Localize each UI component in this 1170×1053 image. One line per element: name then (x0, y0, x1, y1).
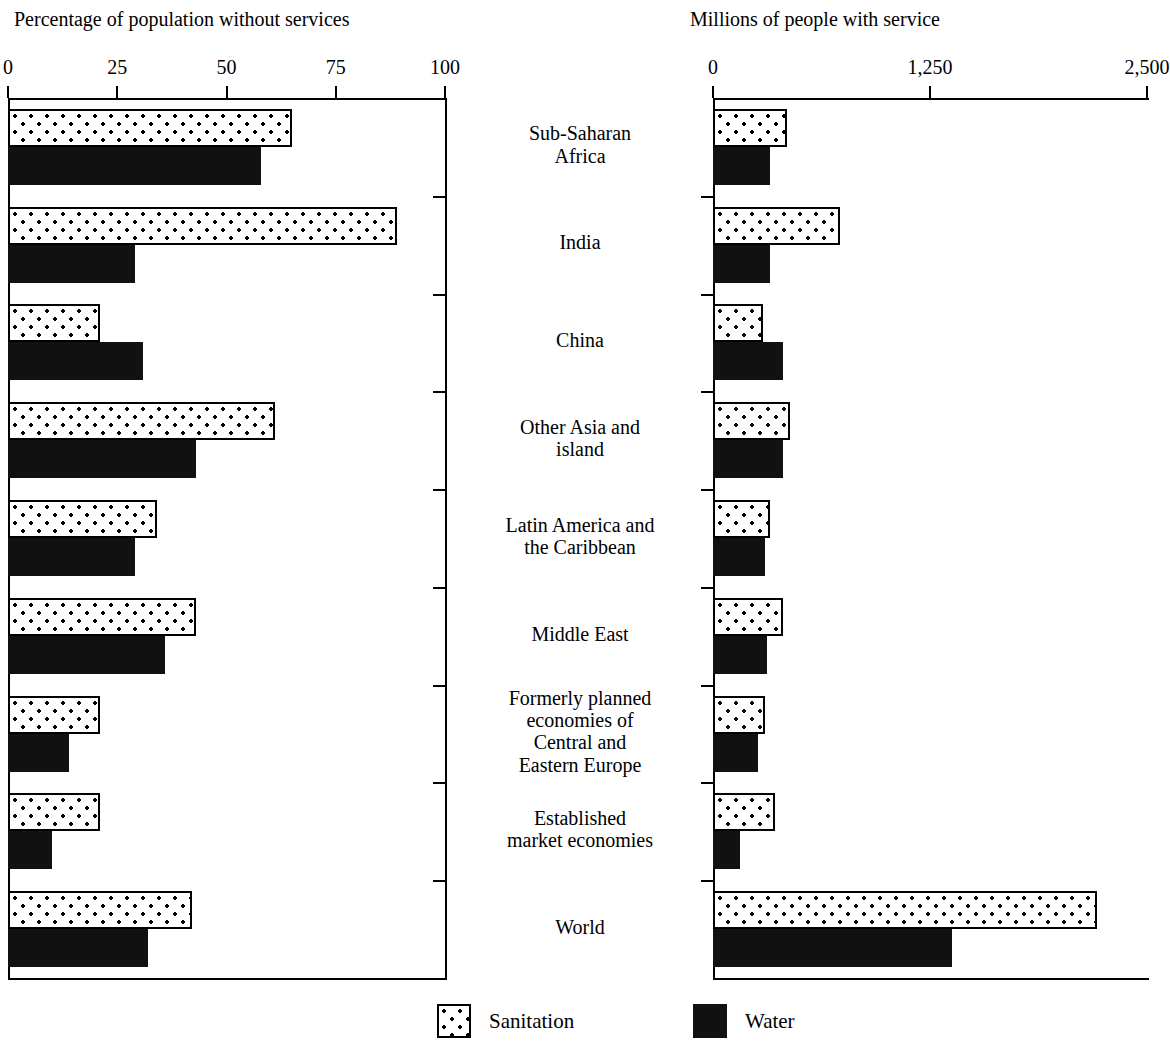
category-label: China (455, 329, 705, 351)
bar-sanitation (713, 109, 787, 147)
x-axis-tick (7, 86, 9, 98)
chart-legend: Sanitation Water (0, 1000, 1153, 1053)
bar-water (8, 147, 261, 185)
bar-sanitation (713, 207, 840, 245)
category-label-line: Other Asia and (455, 416, 705, 438)
bar-water (8, 831, 52, 869)
plot-bottom-border (8, 978, 447, 980)
category-separator-tick (433, 391, 447, 393)
x-axis-tick-label: 0 (708, 56, 718, 79)
category-label-line: Formerly planned (455, 687, 705, 709)
bar-sanitation (8, 696, 100, 734)
bar-water (713, 440, 783, 478)
bar-water (8, 342, 143, 380)
x-axis-tick-label: 75 (326, 56, 346, 79)
bar-water (713, 734, 758, 772)
x-axis-tick (1146, 86, 1148, 98)
category-label: Formerly plannedeconomies ofCentral andE… (455, 687, 705, 777)
legend-label-water: Water (745, 1009, 795, 1034)
bar-water (713, 147, 770, 185)
category-label: India (455, 231, 705, 253)
x-axis-tick-label: 0 (3, 56, 13, 79)
x-axis-tick (712, 86, 714, 98)
category-separator-tick (701, 196, 715, 198)
category-separator-tick (433, 196, 447, 198)
bar-sanitation (8, 402, 275, 440)
category-separator-tick (433, 294, 447, 296)
category-label-line: market economies (455, 829, 705, 851)
bar-water (713, 538, 765, 576)
bar-water (713, 342, 783, 380)
category-label-line: China (455, 329, 705, 351)
category-label-line: Established (455, 807, 705, 829)
bar-sanitation (8, 793, 100, 831)
water-swatch-icon (693, 1004, 727, 1038)
bar-sanitation (713, 402, 790, 440)
category-label: Middle East (455, 623, 705, 645)
x-axis-tick-label: 100 (430, 56, 460, 79)
x-axis-tick (929, 86, 931, 98)
plot-bottom-border (713, 978, 1149, 980)
bar-water (8, 538, 135, 576)
bar-water (8, 636, 165, 674)
category-separator-tick (701, 782, 715, 784)
bar-sanitation (713, 793, 775, 831)
category-label: Sub-SaharanAfrica (455, 122, 705, 167)
x-axis-tick (116, 86, 118, 98)
bar-water (8, 245, 135, 283)
bar-sanitation (8, 109, 292, 147)
category-separator-tick (433, 587, 447, 589)
x-axis-tick (444, 86, 446, 98)
legend-item-sanitation: Sanitation (437, 1004, 574, 1038)
category-label-line: island (455, 438, 705, 460)
category-label: Other Asia andisland (455, 416, 705, 461)
category-label-line: Africa (455, 145, 705, 167)
x-axis-tick (226, 86, 228, 98)
bar-water (713, 636, 767, 674)
category-label: Latin America andthe Caribbean (455, 514, 705, 559)
category-separator-tick (701, 391, 715, 393)
legend-label-sanitation: Sanitation (489, 1009, 574, 1034)
plot-right-border (445, 98, 447, 978)
bar-water (713, 929, 952, 967)
category-label: Establishedmarket economies (455, 807, 705, 852)
x-axis-line (713, 98, 1149, 100)
bar-sanitation (8, 500, 157, 538)
bar-sanitation (713, 500, 770, 538)
category-separator-tick (701, 880, 715, 882)
legend-item-water: Water (693, 1004, 795, 1038)
x-axis-tick (335, 86, 337, 98)
category-label: World (455, 916, 705, 938)
bar-sanitation (713, 304, 763, 342)
category-separator-tick (433, 489, 447, 491)
x-axis-tick-label: 2,500 (1125, 56, 1170, 79)
bar-sanitation (8, 598, 196, 636)
sanitation-swatch-icon (437, 1004, 471, 1038)
bar-sanitation (713, 598, 783, 636)
bar-water (713, 831, 740, 869)
bar-sanitation (713, 891, 1097, 929)
category-label-line: Sub-Saharan (455, 122, 705, 144)
category-separator-tick (433, 782, 447, 784)
category-label-line: India (455, 231, 705, 253)
category-separator-tick (433, 880, 447, 882)
category-separator-tick (701, 587, 715, 589)
bar-water (8, 440, 196, 478)
bar-water (713, 245, 770, 283)
bar-sanitation (8, 207, 397, 245)
category-separator-tick (701, 294, 715, 296)
category-label-line: the Caribbean (455, 536, 705, 558)
left-panel-title: Percentage of population without service… (14, 8, 349, 31)
category-label-line: Central and (455, 731, 705, 753)
bar-water (8, 734, 69, 772)
x-axis-tick-label: 50 (217, 56, 237, 79)
category-label-line: World (455, 916, 705, 938)
category-label-line: Middle East (455, 623, 705, 645)
x-axis-tick-label: 1,250 (908, 56, 953, 79)
category-label-line: Latin America and (455, 514, 705, 536)
category-separator-tick (433, 685, 447, 687)
category-separator-tick (701, 489, 715, 491)
bar-sanitation (713, 696, 765, 734)
category-label-line: Eastern Europe (455, 754, 705, 776)
